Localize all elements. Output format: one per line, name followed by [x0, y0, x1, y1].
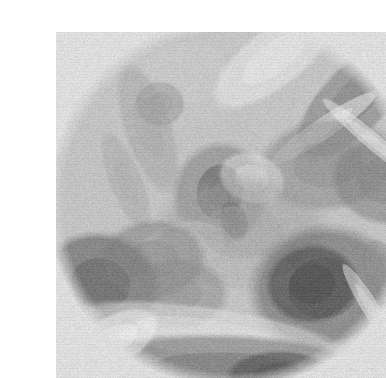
scan-artifact-mark [326, 368, 335, 370]
scan-artifact-mark [348, 369, 359, 371]
scan-artifact-group [302, 366, 380, 374]
scan-artifact-mark [304, 369, 317, 371]
page-root [0, 0, 386, 378]
radiograph-figure [56, 32, 386, 378]
scan-artifact-mark [366, 368, 376, 370]
radiograph-image [56, 32, 386, 378]
